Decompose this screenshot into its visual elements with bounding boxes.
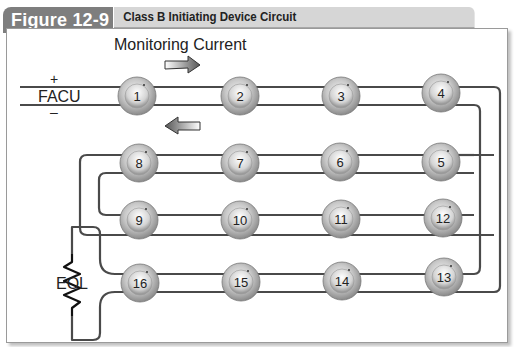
device-number: 8 [135, 156, 142, 171]
device-number: 14 [335, 274, 349, 289]
device-number: 15 [234, 275, 248, 290]
device-3: 3 [322, 77, 360, 115]
device-5: 5 [422, 143, 460, 181]
device-12: 12 [424, 199, 462, 237]
device-2: 2 [221, 77, 259, 115]
devices: 1 2 3 4 5 6 [118, 74, 463, 302]
device-10: 10 [221, 201, 259, 239]
negative-label: – [50, 104, 58, 120]
device-16: 16 [121, 264, 159, 302]
device-8: 8 [120, 144, 158, 182]
eol-label: EOL [56, 275, 88, 293]
device-14: 14 [323, 262, 361, 300]
device-4: 4 [422, 74, 460, 112]
device-number: 6 [336, 155, 343, 170]
device-1: 1 [118, 77, 156, 115]
device-number: 9 [135, 213, 142, 228]
device-number: 3 [337, 89, 344, 104]
device-number: 10 [233, 213, 247, 228]
device-number: 11 [334, 212, 348, 227]
device-number: 1 [133, 89, 140, 104]
circuit-diagram: 1 2 3 4 5 6 [0, 0, 515, 347]
device-number: 2 [236, 89, 243, 104]
device-15: 15 [222, 263, 260, 301]
device-number: 13 [437, 270, 451, 285]
arrow-right-icon [165, 56, 200, 73]
device-6: 6 [321, 143, 359, 181]
device-number: 5 [437, 155, 444, 170]
facu-label: FACU [38, 88, 81, 106]
device-11: 11 [322, 200, 360, 238]
device-number: 7 [236, 156, 243, 171]
monitoring-current-label: Monitoring Current [114, 36, 247, 54]
device-number: 4 [437, 86, 444, 101]
device-7: 7 [221, 144, 259, 182]
arrow-left-icon [165, 117, 200, 134]
device-13: 13 [425, 258, 463, 296]
device-number: 16 [133, 276, 147, 291]
positive-label: + [50, 71, 58, 87]
device-number: 12 [436, 211, 450, 226]
device-9: 9 [120, 201, 158, 239]
